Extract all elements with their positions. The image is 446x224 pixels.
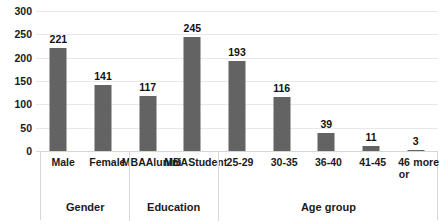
y-tick-label: 100 [0, 99, 32, 109]
bar-slot: 117 [125, 11, 170, 151]
category-label: 41-45 [351, 152, 395, 192]
bar-value-label: 116 [273, 83, 290, 94]
bar-slot: 11 [349, 11, 394, 151]
y-tick-label: 250 [0, 29, 32, 39]
category-label-line: MBA [122, 156, 146, 168]
group-label: Age group [218, 192, 439, 221]
y-tick-label: 0 [0, 146, 32, 156]
bar-value-label: 141 [94, 71, 112, 82]
bar[interactable] [228, 61, 245, 151]
bar[interactable] [318, 133, 335, 151]
category-label-line: 36-40 [315, 156, 342, 168]
bar-value-label: 11 [365, 132, 376, 143]
category-label-table: MaleFemaleMBAAluniniMBAStudent25-2930-35… [40, 151, 438, 220]
category-label: 36-40 [306, 152, 350, 192]
bars-layer: 22114111724519311639113 [36, 11, 438, 151]
y-axis: 300250200150100500 [0, 11, 32, 151]
bar-slot: 141 [81, 11, 126, 151]
category-label: 25-29 [218, 152, 262, 192]
category-row: MaleFemaleMBAAluniniMBAStudent25-2930-35… [41, 152, 437, 192]
y-tick-label: 300 [0, 6, 32, 16]
bar-slot: 221 [36, 11, 81, 151]
bar-value-label: 245 [184, 23, 202, 34]
category-label: MBAStudent [174, 152, 218, 192]
category-label-line: Female [89, 156, 125, 168]
bar[interactable] [139, 96, 156, 151]
bar-slot: 3 [393, 11, 438, 151]
y-tick-label: 150 [0, 76, 32, 86]
group-divider [129, 152, 130, 221]
bar[interactable] [50, 48, 67, 151]
group-row: GenderEducationAge group [41, 192, 437, 221]
category-label-line: 25-29 [227, 156, 254, 168]
y-tick-label: 200 [0, 53, 32, 63]
bar[interactable] [273, 97, 290, 151]
category-label-line: 41-45 [359, 156, 386, 168]
group-divider [218, 152, 219, 221]
category-label-line: MBA [164, 156, 188, 168]
group-label: Education [129, 192, 217, 221]
bar-slot: 193 [215, 11, 260, 151]
category-label-line: Male [51, 156, 74, 168]
bar-chart: 300250200150100500 221141117245193116391… [0, 0, 446, 224]
bar-slot: 39 [304, 11, 349, 151]
bar-value-label: 3 [413, 136, 419, 147]
bar[interactable] [184, 37, 201, 151]
category-label-line: 46 or [395, 156, 414, 180]
bar[interactable] [94, 85, 111, 151]
category-label: Male [41, 152, 85, 192]
category-label: 46 ormore [395, 152, 439, 192]
bar-value-label: 193 [228, 47, 246, 58]
bar-value-label: 117 [139, 82, 156, 93]
category-label: 30-35 [262, 152, 306, 192]
bar-slot: 245 [170, 11, 215, 151]
bar-value-label: 39 [320, 119, 332, 130]
category-label-line: more [413, 156, 439, 168]
group-label: Gender [41, 192, 129, 221]
category-label-line: 30-35 [271, 156, 298, 168]
bar-slot: 116 [259, 11, 304, 151]
bar-value-label: 221 [50, 34, 68, 45]
y-tick-label: 50 [0, 123, 32, 133]
